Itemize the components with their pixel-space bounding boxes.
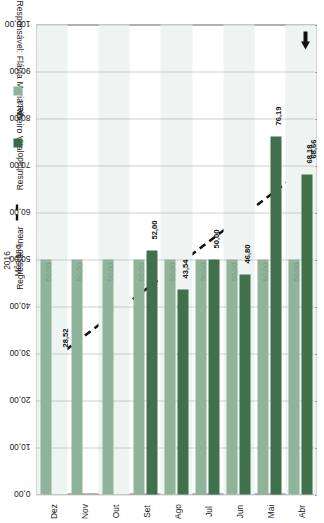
category-label-jun: Jun — [234, 498, 244, 523]
gridline — [36, 71, 316, 72]
category-label-dez: Dez — [48, 498, 58, 523]
bar-resultado — [301, 174, 312, 494]
bar-meta — [226, 259, 237, 494]
value-tick-label: 30,00 — [9, 347, 30, 357]
category-label-ago: Ago — [172, 498, 182, 523]
legend-meta-label: Meta — [14, 100, 24, 119]
bar-meta — [40, 259, 51, 494]
value-label-meta: 50,00 — [260, 262, 269, 281]
category-label-out: Out — [110, 498, 120, 523]
chart-stage: Responsável: Flávia Maria Ribeiro Vital … — [0, 0, 324, 523]
bar-meta — [133, 259, 144, 494]
value-label-trend-end: 28,52 — [60, 328, 69, 347]
legend-regressao-linear-line — [15, 204, 18, 224]
legend-resultado-swatch — [13, 138, 22, 147]
category-label-set: Set — [141, 498, 151, 523]
bar-meta — [102, 259, 113, 494]
bar-meta — [288, 259, 299, 494]
value-label-meta: 50,00 — [43, 262, 52, 281]
value-label-meta: 50,00 — [167, 262, 176, 281]
value-label-resultado: 50,00 — [211, 229, 220, 248]
value-label-trend-start: 68,66 — [308, 139, 317, 158]
value-label-meta: 50,00 — [229, 262, 238, 281]
value-label-meta: 50,00 — [74, 262, 83, 281]
bar-meta — [195, 259, 206, 494]
bar-resultado — [208, 259, 219, 494]
value-label-resultado: 76,19 — [273, 106, 282, 125]
value-tick-label: 100,00 — [4, 18, 30, 28]
value-label-resultado: 52,00 — [149, 220, 158, 239]
legend-resultado-label: Resultado — [14, 152, 24, 190]
bar-meta — [164, 259, 175, 494]
bar-resultado — [146, 250, 157, 494]
category-label-mai: Mai — [265, 498, 275, 523]
category-label-jul: Jul — [203, 498, 213, 523]
legend-regressao-linear-label: Regressão linear — [14, 226, 24, 289]
bar-resultado — [239, 274, 250, 494]
value-tick-label: 0,00 — [14, 488, 30, 498]
value-label-meta: 50,00 — [136, 262, 145, 281]
category-label-abr: Abr — [296, 498, 306, 523]
axis-title-year: 2016 — [1, 210, 11, 310]
plot-area: 68,1850,0076,1950,0046,8050,0050,0050,00… — [36, 24, 316, 494]
value-label-resultado: 43,54 — [180, 259, 189, 278]
bar-resultado — [270, 136, 281, 494]
value-label-meta: 50,00 — [105, 262, 114, 281]
value-tick-label: 10,00 — [9, 441, 30, 451]
value-label-meta: 50,00 — [198, 262, 207, 281]
value-tick-label: 20,00 — [9, 394, 30, 404]
category-label-nov: Nov — [79, 498, 89, 523]
chart-page: Responsável: Flávia Maria Ribeiro Vital … — [0, 0, 324, 523]
legend-meta-swatch — [13, 86, 22, 95]
gridline — [36, 24, 316, 25]
left-arrow-icon — [299, 30, 311, 50]
value-label-resultado: 46,80 — [242, 244, 251, 263]
value-tick-label: 90,00 — [9, 65, 30, 75]
bar-resultado — [177, 289, 188, 494]
bar-meta — [257, 259, 268, 494]
value-label-meta: 50,00 — [291, 262, 300, 281]
bar-meta — [71, 259, 82, 494]
